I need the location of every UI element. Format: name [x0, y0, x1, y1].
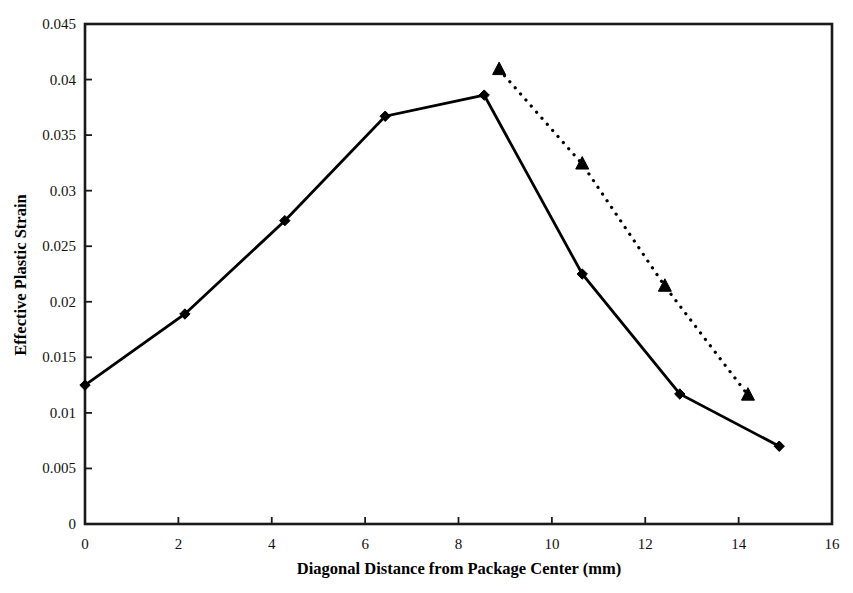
- x-tick-label: 2: [175, 536, 183, 552]
- y-tick-label: 0.015: [42, 349, 76, 365]
- series-solid-diamond-series: [80, 90, 785, 452]
- data-series-group: [80, 62, 785, 451]
- x-axis-tick-labels: 0246810121416: [81, 536, 840, 552]
- plot-frame: [85, 24, 832, 524]
- chart-canvas: 0246810121416 00.0050.010.0150.020.0250.…: [0, 0, 853, 593]
- x-tick-label: 10: [544, 536, 559, 552]
- x-tick-label: 0: [81, 536, 89, 552]
- x-axis-title: Diagonal Distance from Package Center (m…: [297, 559, 621, 578]
- triangle-marker: [741, 388, 754, 400]
- diamond-marker: [774, 441, 784, 451]
- triangle-marker: [493, 62, 506, 74]
- chart-figure: 0246810121416 00.0050.010.0150.020.0250.…: [0, 0, 853, 593]
- x-tick-label: 6: [361, 536, 369, 552]
- triangle-marker: [576, 157, 589, 169]
- y-tick-label: 0.035: [42, 127, 76, 143]
- y-axis-title: Effective Plastic Strain: [11, 194, 30, 355]
- y-tick-label: 0.03: [50, 183, 76, 199]
- y-tick-label: 0.04: [50, 72, 77, 88]
- y-tick-label: 0.02: [50, 294, 76, 310]
- diamond-marker: [479, 90, 489, 100]
- y-tick-label: 0.045: [42, 16, 76, 32]
- y-tick-label: 0.01: [50, 405, 76, 421]
- x-tick-label: 12: [638, 536, 653, 552]
- y-axis-tick-labels: 00.0050.010.0150.020.0250.030.0350.040.0…: [42, 16, 76, 532]
- y-tick-label: 0: [69, 516, 77, 532]
- x-tick-label: 16: [825, 536, 841, 552]
- x-tick-label: 4: [268, 536, 276, 552]
- y-tick-label: 0.005: [42, 460, 76, 476]
- series-line: [499, 70, 748, 396]
- x-tick-label: 14: [731, 536, 747, 552]
- y-tick-label: 0.025: [42, 238, 76, 254]
- x-tick-label: 8: [455, 536, 463, 552]
- series-dotted-triangle-series: [493, 62, 755, 400]
